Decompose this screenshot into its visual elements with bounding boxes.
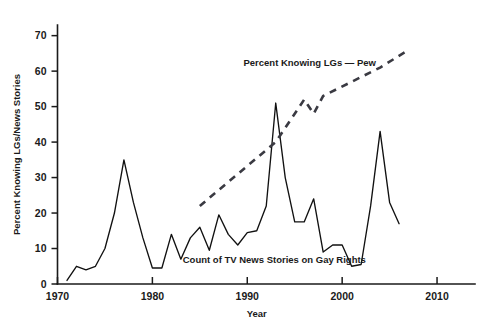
series-annotation-label: Count of TV News Stories on Gay Rights — [183, 254, 366, 265]
chart-container: 010203040506070 19701980199020002010 Per… — [0, 0, 489, 324]
y-tick-label: 70 — [35, 29, 47, 41]
x-tick-label: 1980 — [141, 290, 165, 302]
chart-annotations: Percent Knowing LGs — PewCount of TV New… — [183, 57, 377, 265]
x-tick-label: 2010 — [425, 290, 449, 302]
y-tick-label: 0 — [41, 278, 47, 290]
y-tick-label: 20 — [35, 207, 47, 219]
series-percent-knowing-lgs — [200, 50, 409, 206]
y-axis-ticks — [52, 36, 58, 284]
y-axis-tick-labels: 010203040506070 — [35, 29, 47, 289]
x-tick-label: 2000 — [330, 290, 354, 302]
line-chart: 010203040506070 19701980199020002010 Per… — [0, 0, 489, 324]
y-tick-label: 60 — [35, 65, 47, 77]
x-tick-label: 1970 — [46, 290, 70, 302]
x-axis-title: Year — [247, 308, 267, 319]
y-tick-label: 10 — [35, 242, 47, 254]
series-annotation-label: Percent Knowing LGs — Pew — [243, 57, 376, 68]
y-tick-label: 30 — [35, 171, 47, 183]
x-tick-label: 1990 — [236, 290, 260, 302]
y-tick-label: 40 — [35, 136, 47, 148]
y-axis-title: Percent Knowing LGs/News Stories — [11, 74, 22, 235]
x-axis-tick-labels: 19701980199020002010 — [46, 290, 449, 302]
y-tick-label: 50 — [35, 100, 47, 112]
x-axis-ticks — [58, 277, 438, 284]
